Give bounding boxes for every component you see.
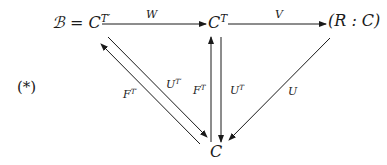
arrow-u xyxy=(229,38,330,140)
node-c: C xyxy=(210,144,222,160)
label-u: U xyxy=(288,86,297,97)
node-ct-base: C xyxy=(208,13,220,32)
node-ct: CT xyxy=(208,13,227,31)
label-ut: UT xyxy=(230,84,244,96)
node-rc-base: (R : C) xyxy=(328,11,380,30)
node-b-ctprime-sup: T′ xyxy=(101,12,110,24)
label-utprime: UT′ xyxy=(166,78,182,90)
arrow-ftprime xyxy=(101,44,200,144)
label-w: W xyxy=(146,9,157,20)
equation-tag: (*) xyxy=(17,80,36,95)
node-rc: (R : C) xyxy=(328,13,380,29)
node-c-base: C xyxy=(210,142,222,161)
node-ct-sup: T xyxy=(220,12,227,24)
node-b-ctprime: ℬ = CT′ xyxy=(52,13,110,31)
label-ft: FT xyxy=(193,84,205,96)
label-v: V xyxy=(275,9,283,20)
label-ftprime: FT′ xyxy=(123,88,137,100)
node-b-ctprime-base: ℬ = C xyxy=(52,13,101,32)
